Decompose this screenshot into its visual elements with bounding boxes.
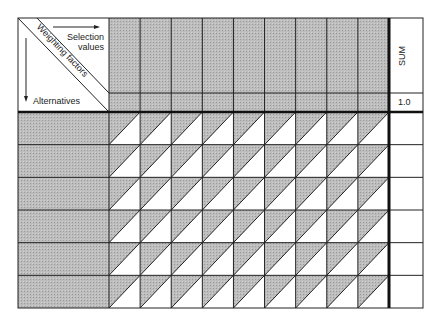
arrow-down-icon	[24, 96, 28, 102]
arrow-right-icon	[94, 25, 100, 29]
criteria-header-area	[109, 18, 389, 112]
weights-sum-value: 1.0	[398, 97, 411, 107]
alternatives-label: Alternatives	[33, 96, 80, 106]
sum-header: SUM	[397, 46, 407, 66]
selection-label-line1: Selection	[60, 32, 104, 42]
